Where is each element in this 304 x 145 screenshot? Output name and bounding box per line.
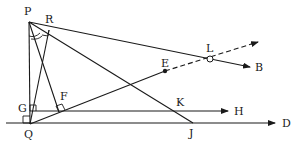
label-f: F	[60, 90, 68, 103]
label-k: K	[176, 96, 185, 109]
label-j: J	[188, 127, 193, 140]
angle-arc-p-icon	[29, 33, 40, 37]
geometry-diagram: P R Q G F E L K J B H D	[0, 0, 304, 145]
label-d: D	[282, 117, 291, 130]
point-l-circle-icon	[207, 56, 213, 62]
label-p: P	[24, 5, 32, 18]
right-angle-q-icon	[23, 116, 30, 123]
segment-pj	[29, 22, 193, 123]
segment-qe	[30, 71, 165, 124]
label-e: E	[161, 57, 169, 70]
label-q: Q	[24, 128, 33, 141]
segment-rq	[30, 30, 49, 124]
label-b: B	[255, 61, 263, 74]
label-h: H	[234, 105, 244, 118]
label-l: L	[206, 42, 214, 55]
ray-pb	[29, 22, 250, 67]
label-g: G	[18, 102, 27, 115]
label-r: R	[45, 13, 54, 26]
